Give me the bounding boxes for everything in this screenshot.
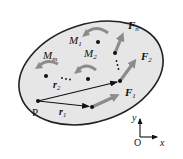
point-F1-application [90,105,94,109]
point-P [36,99,40,103]
coordinate-axes [140,119,157,137]
point-M2 [86,77,90,81]
rigid-body [5,4,176,143]
point-Fn-application [113,51,117,55]
label-axis-x: x [159,137,165,148]
point-M1 [96,40,100,44]
point-F2-application [118,79,122,83]
label-P: P [32,106,38,118]
diagram-canvas: M1 M2 Mm Fn F2 F1 r2 r1 P y O x [0,0,183,159]
label-Fn: Fn [127,19,139,33]
point-Mm [44,74,48,78]
label-axis-origin: O [134,137,141,148]
label-axis-y: y [131,112,137,123]
